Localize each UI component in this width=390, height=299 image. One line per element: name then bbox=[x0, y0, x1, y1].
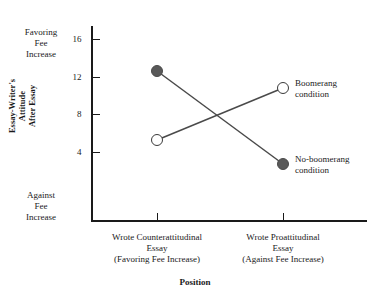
y-axis-title-line-2: Attitude bbox=[17, 79, 27, 133]
x-category-proattitudinal-line-1: Wrote Proattitudinal bbox=[208, 232, 358, 243]
data-point-no-boomerang-counterattitudinal[interactable] bbox=[151, 65, 163, 77]
y-tick-label-4: 4 bbox=[77, 148, 82, 157]
legend-label-no-boomerang-line-2: condition bbox=[295, 165, 349, 176]
y-axis-low-anchor-label: Against Fee Increase bbox=[8, 190, 74, 223]
x-category-label-proattitudinal: Wrote Proattitudinal Essay (Against Fee … bbox=[208, 232, 358, 265]
y-axis-low-anchor-line-2: Fee bbox=[8, 201, 74, 212]
y-axis-low-anchor-line-1: Against bbox=[8, 190, 74, 201]
data-layer: Boomerang condition No-boomerang conditi… bbox=[91, 26, 367, 222]
data-point-no-boomerang-proattitudinal[interactable] bbox=[277, 158, 289, 170]
y-tick-label-16: 16 bbox=[73, 35, 82, 44]
attitude-line-chart: Favoring Fee Increase Against Fee Increa… bbox=[0, 0, 390, 299]
y-axis-high-anchor-line-1: Favoring bbox=[8, 27, 74, 38]
legend-label-boomerang-line-2: condition bbox=[295, 89, 337, 100]
x-category-proattitudinal-line-2: Essay bbox=[208, 243, 358, 254]
legend-label-boomerang-line-1: Boomerang bbox=[295, 78, 337, 89]
y-axis-low-anchor-line-3: Increase bbox=[8, 212, 74, 223]
y-tick-label-8: 8 bbox=[77, 110, 82, 119]
y-tick-label-12: 12 bbox=[73, 73, 82, 82]
legend-label-no-boomerang: No-boomerang condition bbox=[295, 154, 349, 175]
y-axis-title: Essay-Writer's Attitude After Essay bbox=[0, 44, 44, 168]
y-axis-title-line-3: After Essay bbox=[27, 79, 37, 133]
series-line-boomerang bbox=[157, 88, 283, 140]
data-point-boomerang-proattitudinal[interactable] bbox=[277, 82, 289, 94]
plot-area: 16 12 8 4 Boomerang conditio bbox=[91, 26, 367, 222]
series-line-no-boomerang bbox=[157, 71, 283, 164]
legend-label-boomerang: Boomerang condition bbox=[295, 78, 337, 99]
legend-label-no-boomerang-line-1: No-boomerang bbox=[295, 154, 349, 165]
y-axis-title-line-1: Essay-Writer's bbox=[7, 79, 17, 133]
data-point-boomerang-counterattitudinal[interactable] bbox=[151, 134, 163, 146]
x-axis-title: Position bbox=[0, 277, 390, 287]
x-category-proattitudinal-line-3: (Against Fee Increase) bbox=[208, 254, 358, 265]
